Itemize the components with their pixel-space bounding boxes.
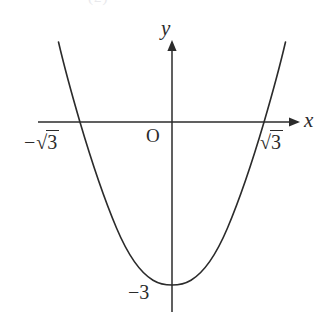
x-axis — [38, 117, 300, 126]
origin-label: O — [146, 126, 160, 145]
parabola-figure: (2) y x O −√3 √3 −3 — [0, 0, 326, 323]
y-intercept-label: −3 — [128, 282, 149, 302]
x-intercept-positive-label: √3 — [259, 130, 283, 152]
y-axis-arrowhead — [167, 40, 176, 51]
x-axis-arrowhead — [289, 117, 300, 126]
y-axis — [167, 40, 176, 312]
x-axis-label: x — [304, 110, 313, 131]
radical-positive: √3 — [259, 130, 283, 152]
minus-sign: − — [24, 131, 35, 153]
y-axis-label: y — [161, 18, 170, 39]
radical-negative: √3 — [35, 130, 59, 152]
x-intercept-negative-label: −√3 — [24, 130, 59, 152]
graph-canvas — [0, 0, 326, 323]
radicand-negative: 3 — [46, 130, 59, 152]
radicand-positive: 3 — [270, 130, 283, 152]
